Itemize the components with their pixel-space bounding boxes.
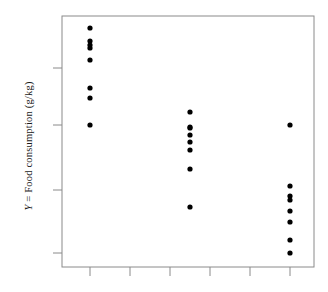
data-point [287,183,292,188]
data-point [87,85,92,90]
scatter-plot-figure: Y = Food consumption (g/kg) [0,0,328,292]
data-point [87,25,92,30]
data-point [287,237,292,242]
data-point [187,147,192,152]
data-points [87,25,292,255]
data-point [87,95,92,100]
data-point [187,124,192,129]
data-point [187,109,192,114]
x-axis-ticks [90,267,290,276]
data-point [87,57,92,62]
y-axis-ticks [53,68,62,253]
data-point [87,122,92,127]
data-point [87,45,92,50]
data-point [187,139,192,144]
data-point [287,208,292,213]
data-point [187,166,192,171]
data-point [287,122,292,127]
data-point [187,132,192,137]
data-point [287,250,292,255]
data-point [287,197,292,202]
data-point [187,204,192,209]
plot-area [0,0,328,292]
data-point [287,219,292,224]
